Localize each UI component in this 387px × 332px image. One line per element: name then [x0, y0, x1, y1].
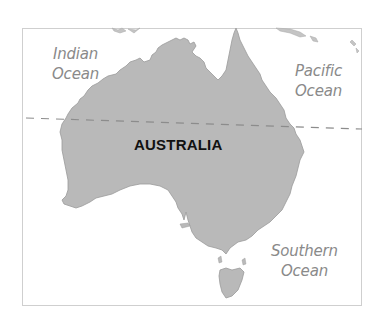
ocean-label-indian: Indian Ocean	[52, 44, 99, 84]
country-label-australia: AUSTRALIA	[134, 136, 222, 153]
ocean-label-line1: Pacific	[295, 61, 342, 81]
ocean-label-line2: Ocean	[295, 81, 342, 101]
bass-strait-island	[218, 256, 222, 263]
kangaroo-island	[180, 223, 190, 228]
ocean-label-line1: Southern	[271, 241, 338, 261]
ocean-label-pacific: Pacific Ocean	[295, 61, 342, 101]
bass-strait-island	[242, 258, 246, 265]
ocean-label-line2: Ocean	[271, 261, 338, 281]
tasmania	[219, 268, 244, 298]
ocean-label-southern: Southern Ocean	[271, 241, 338, 281]
ocean-label-line1: Indian	[52, 44, 99, 64]
ocean-label-line2: Ocean	[52, 64, 99, 84]
